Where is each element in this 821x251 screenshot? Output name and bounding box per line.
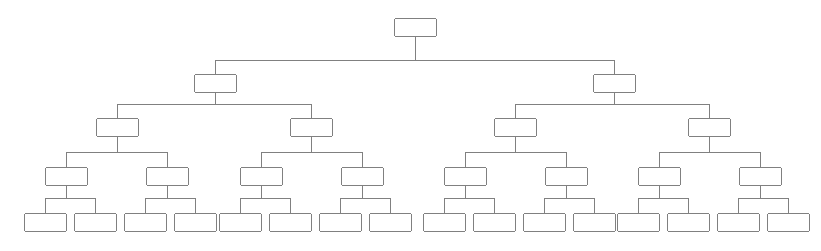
- node-box[interactable]: [370, 214, 412, 232]
- node-box[interactable]: [424, 214, 466, 232]
- tree-node[interactable]: [97, 119, 139, 137]
- node-box[interactable]: [46, 168, 88, 186]
- tree-node-leaf[interactable]: [524, 214, 566, 232]
- node-box[interactable]: [342, 168, 384, 186]
- node-box[interactable]: [241, 168, 283, 186]
- tree-node-leaf[interactable]: [125, 214, 167, 232]
- node-box[interactable]: [445, 168, 487, 186]
- node-box[interactable]: [75, 214, 117, 232]
- tree-node-leaf[interactable]: [718, 214, 760, 232]
- node-box[interactable]: [395, 19, 437, 37]
- node-box[interactable]: [495, 119, 537, 137]
- tree-node[interactable]: [639, 168, 681, 186]
- tree-node[interactable]: [594, 75, 636, 93]
- tree-node-leaf[interactable]: [574, 214, 616, 232]
- tree-diagram-svg: [0, 0, 821, 251]
- node-box[interactable]: [474, 214, 516, 232]
- node-box[interactable]: [125, 214, 167, 232]
- node-box[interactable]: [195, 75, 237, 93]
- tree-node-leaf[interactable]: [220, 214, 262, 232]
- node-box[interactable]: [618, 214, 660, 232]
- tree-node[interactable]: [195, 75, 237, 93]
- node-box[interactable]: [689, 119, 731, 137]
- node-box[interactable]: [594, 75, 636, 93]
- tree-node-leaf[interactable]: [320, 214, 362, 232]
- tree-node-leaf[interactable]: [75, 214, 117, 232]
- tree-node[interactable]: [46, 168, 88, 186]
- tree-node[interactable]: [495, 119, 537, 137]
- tree-node[interactable]: [445, 168, 487, 186]
- tree-node-leaf[interactable]: [370, 214, 412, 232]
- node-box[interactable]: [740, 168, 782, 186]
- node-box[interactable]: [97, 119, 139, 137]
- tree-diagram-canvas: [0, 0, 821, 251]
- tree-node[interactable]: [546, 168, 588, 186]
- node-box[interactable]: [768, 214, 810, 232]
- node-box[interactable]: [175, 214, 217, 232]
- node-box[interactable]: [546, 168, 588, 186]
- tree-node-leaf[interactable]: [25, 214, 67, 232]
- node-box[interactable]: [147, 168, 189, 186]
- node-box[interactable]: [639, 168, 681, 186]
- tree-node[interactable]: [342, 168, 384, 186]
- tree-node-leaf[interactable]: [175, 214, 217, 232]
- tree-node-root[interactable]: [395, 19, 437, 37]
- tree-node[interactable]: [689, 119, 731, 137]
- tree-node-leaf[interactable]: [474, 214, 516, 232]
- node-box[interactable]: [220, 214, 262, 232]
- tree-node-leaf[interactable]: [668, 214, 710, 232]
- node-box[interactable]: [291, 119, 333, 137]
- node-box[interactable]: [718, 214, 760, 232]
- tree-node[interactable]: [291, 119, 333, 137]
- tree-node[interactable]: [147, 168, 189, 186]
- tree-node[interactable]: [740, 168, 782, 186]
- node-box[interactable]: [25, 214, 67, 232]
- tree-node-leaf[interactable]: [424, 214, 466, 232]
- node-box[interactable]: [668, 214, 710, 232]
- tree-node-leaf[interactable]: [768, 214, 810, 232]
- node-box[interactable]: [270, 214, 312, 232]
- node-box[interactable]: [574, 214, 616, 232]
- node-box[interactable]: [320, 214, 362, 232]
- tree-node-leaf[interactable]: [270, 214, 312, 232]
- tree-node-leaf[interactable]: [618, 214, 660, 232]
- node-box[interactable]: [524, 214, 566, 232]
- tree-node[interactable]: [241, 168, 283, 186]
